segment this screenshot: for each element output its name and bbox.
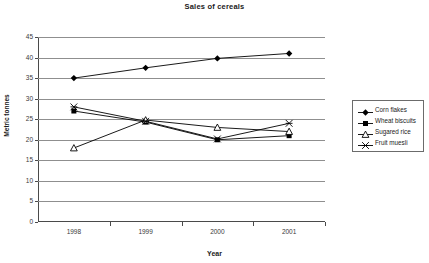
series-marker — [70, 145, 77, 151]
y-tick-label: 5 — [7, 197, 33, 204]
series-marker — [286, 120, 293, 127]
y-tick-label: 35 — [7, 74, 33, 81]
series-line — [74, 107, 289, 139]
legend-item-wheat-biscuits[interactable]: Wheat biscuits — [357, 115, 421, 126]
y-tick-label: 0 — [7, 218, 33, 225]
y-tick-label: 20 — [7, 136, 33, 143]
series-line — [74, 120, 289, 148]
series-marker — [71, 75, 77, 81]
y-axis-title: Metric tonnes — [3, 66, 10, 166]
series-layer — [38, 37, 325, 223]
series-marker — [214, 55, 220, 61]
y-tick-label: 25 — [7, 115, 33, 122]
y-tick-label: 45 — [7, 33, 33, 40]
x-tick-label: 1998 — [54, 228, 94, 235]
legend-item-corn-flakes[interactable]: Corn flakes — [357, 104, 421, 115]
chart-title: Sales of cereals — [0, 2, 429, 11]
y-tick-label: 30 — [7, 95, 33, 102]
y-tick-label: 15 — [7, 156, 33, 163]
series-line — [74, 53, 289, 78]
series-marker — [215, 137, 220, 142]
triangle-marker-icon — [357, 126, 374, 137]
x-tick-label: 2000 — [197, 228, 237, 235]
chart-canvas: Sales of cereals 05101520253035404519981… — [0, 0, 429, 263]
legend-item-sugared-rice[interactable]: Sugared rice — [357, 126, 421, 137]
y-tick-label: 10 — [7, 177, 33, 184]
series-marker — [142, 65, 148, 71]
square-marker-icon — [357, 115, 374, 126]
legend-item-fruit-muesli[interactable]: Fruit muesli — [357, 137, 421, 148]
star-glyph — [362, 142, 369, 149]
x-tick-label: 1999 — [126, 228, 166, 235]
y-tick-label: 40 — [7, 54, 33, 61]
x-axis-title: Year — [0, 250, 429, 257]
legend-label: Fruit muesli — [375, 139, 408, 146]
legend-label: Sugared rice — [375, 128, 411, 135]
x-tick-label: 2001 — [269, 228, 309, 235]
series-marker — [286, 50, 292, 56]
x-tick-mark — [325, 222, 326, 226]
chart-legend[interactable]: Corn flakesWheat biscuitsSugared riceFru… — [352, 100, 424, 152]
legend-label: Corn flakes — [375, 106, 407, 113]
legend-label: Wheat biscuits — [375, 117, 416, 124]
star-marker-icon — [357, 137, 374, 148]
diamond-marker-icon — [357, 104, 374, 115]
